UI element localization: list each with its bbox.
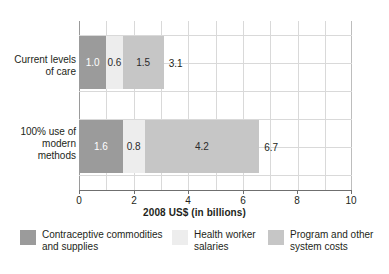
bar-total-label: 3.1 [169, 57, 183, 68]
bar-segment-program[interactable]: 4.2 [145, 120, 260, 173]
legend-item-label: Health worker salaries [194, 229, 256, 253]
legend-item-label: Program and other system costs [290, 229, 373, 253]
x-tick-mark-6 [243, 190, 244, 194]
category-label-current-levels: Current levels of care [0, 54, 76, 78]
x-tick-mark-4 [188, 190, 189, 194]
category-label-modern-methods: 100% use of modern methods [0, 126, 76, 162]
bar-segment-value: 0.6 [108, 58, 122, 68]
x-axis-line [79, 190, 352, 191]
bar-segment-value: 1.0 [86, 58, 100, 68]
bar-100-percent-modern-methods[interactable]: 1.6 0.8 4.2 6.7 [79, 120, 352, 173]
bar-segment-value: 1.6 [94, 142, 108, 152]
x-tick-label-4: 4 [176, 195, 200, 206]
category-label-line: modern [0, 138, 76, 150]
bar-current-levels-of-care[interactable]: 1.0 0.6 1.5 3.1 [79, 36, 352, 89]
legend-item-program[interactable]: Program and other system costs [268, 229, 373, 253]
bar-segment-salaries[interactable]: 0.6 [106, 36, 122, 89]
grid-line-horizontal-6 [79, 175, 352, 176]
legend-item-label: Contraceptive commodities and supplies [42, 229, 163, 253]
chart-legend: Contraceptive commodities and supplies H… [0, 229, 389, 269]
plot-area: 1.0 0.6 1.5 3.1 1.6 0.8 4.2 6.7 [79, 21, 352, 190]
category-label-line: of care [0, 66, 76, 78]
legend-item-commodities[interactable]: Contraceptive commodities and supplies [20, 229, 163, 253]
bar-segment-commodities[interactable]: 1.0 [79, 36, 106, 89]
legend-swatch-icon [20, 230, 36, 245]
x-tick-label-6: 6 [231, 195, 255, 206]
category-label-line: Current levels [0, 54, 76, 66]
x-tick-label-10: 10 [339, 195, 363, 206]
x-tick-label-0: 0 [67, 195, 91, 206]
bar-segment-value: 0.8 [127, 142, 141, 152]
bar-segment-salaries[interactable]: 0.8 [123, 120, 145, 173]
bar-segment-value: 1.5 [136, 58, 150, 68]
bar-total-label: 6.7 [264, 141, 278, 152]
category-label-line: methods [0, 150, 76, 162]
x-axis-title: 2008 US$ (in billions) [0, 207, 389, 218]
legend-item-salaries[interactable]: Health worker salaries [172, 229, 256, 253]
bar-segment-program[interactable]: 1.5 [123, 36, 164, 89]
legend-swatch-icon [172, 230, 188, 245]
bar-segment-value: 4.2 [195, 142, 209, 152]
legend-swatch-icon [268, 230, 284, 245]
x-tick-label-8: 8 [285, 195, 309, 206]
x-tick-mark-0 [79, 190, 80, 194]
x-tick-label-2: 2 [122, 195, 146, 206]
grid-line-horizontal-3 [79, 91, 352, 92]
x-tick-mark-10 [351, 190, 352, 194]
category-label-line: 100% use of [0, 126, 76, 138]
bar-segment-commodities[interactable]: 1.6 [79, 120, 123, 173]
x-tick-mark-2 [134, 190, 135, 194]
stacked-bar-chart: 1.0 0.6 1.5 3.1 1.6 0.8 4.2 6.7 [0, 0, 389, 274]
x-tick-mark-8 [297, 190, 298, 194]
